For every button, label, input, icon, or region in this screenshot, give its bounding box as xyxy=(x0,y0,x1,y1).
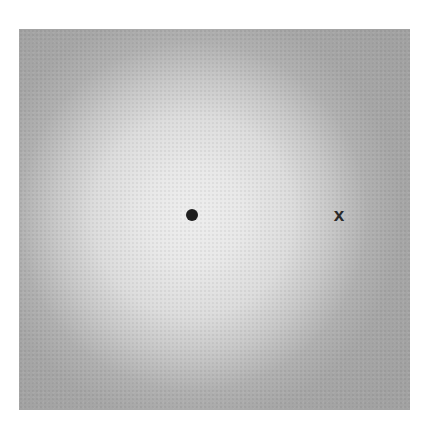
target-x-mark: x xyxy=(327,203,351,227)
visual-stimulus-panel: x xyxy=(19,29,410,410)
halftone-texture xyxy=(19,29,410,410)
fixation-dot-icon xyxy=(186,209,198,221)
